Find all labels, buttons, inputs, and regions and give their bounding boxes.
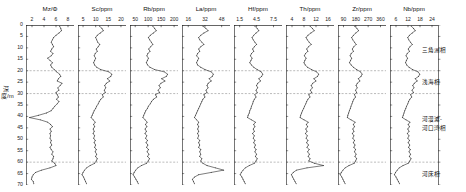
chart-panel-hf-ppm: Hf/ppm1.54.57.5 (234, 25, 282, 185)
data-point (307, 167, 308, 168)
data-point (197, 110, 198, 111)
data-point (200, 154, 201, 155)
data-point (356, 85, 357, 86)
data-point (51, 145, 52, 146)
data-point (310, 26, 311, 27)
data-point (51, 140, 52, 141)
data-point (306, 142, 307, 143)
panel-xtick-label: 7.5 (270, 17, 277, 22)
data-point (207, 165, 208, 166)
data-point (410, 154, 411, 155)
chart-panel-th-ppm: Th/ppm481216 (286, 25, 334, 185)
data-point (347, 115, 348, 116)
data-point (207, 92, 208, 93)
data-point (251, 106, 252, 107)
data-point (408, 124, 409, 125)
data-curve (82, 26, 112, 184)
data-point (50, 51, 51, 52)
data-point (409, 99, 410, 100)
data-point (411, 26, 412, 27)
data-point (349, 62, 350, 63)
data-point (211, 81, 212, 82)
data-point (355, 90, 356, 91)
data-point (50, 142, 51, 143)
data-point (353, 51, 354, 52)
data-point (52, 44, 53, 45)
data-point (411, 97, 412, 98)
depth-tick-label: 10 (17, 45, 23, 50)
panel-title: Sc/ppm (78, 6, 126, 12)
data-point (96, 154, 97, 155)
data-point (54, 163, 55, 164)
data-point (195, 115, 196, 116)
data-point (152, 44, 153, 45)
data-point (94, 163, 95, 164)
data-point (145, 110, 146, 111)
data-point (95, 122, 96, 123)
data-point (255, 145, 256, 146)
data-point (305, 129, 306, 130)
data-point (254, 94, 255, 95)
panel-xtick-label: 100 (144, 17, 152, 22)
data-point (198, 142, 199, 143)
data-point (250, 60, 251, 61)
data-point (409, 131, 410, 132)
data-point (252, 103, 253, 104)
data-point (51, 131, 52, 132)
data-point (300, 117, 301, 118)
data-point (407, 58, 408, 59)
chart-panel-zr-ppm: Zr/ppm90180270360 (338, 25, 386, 185)
data-point (410, 94, 411, 95)
data-point (198, 131, 199, 132)
data-point (256, 154, 257, 155)
data-point (256, 90, 257, 91)
panel-xtick-label: 50 (132, 17, 138, 22)
panel-xtick-row: 481216 (286, 17, 334, 24)
data-point (356, 44, 357, 45)
data-point (56, 35, 57, 36)
data-point (51, 42, 52, 43)
data-point (305, 65, 306, 66)
data-point (254, 26, 255, 27)
data-point (409, 145, 410, 146)
data-point (94, 60, 95, 61)
data-point (51, 154, 52, 155)
data-point (241, 172, 242, 173)
data-point (148, 154, 149, 155)
data-point (253, 39, 254, 40)
data-point (94, 110, 95, 111)
chart-panel-sc-ppm: Sc/ppm5101520 (78, 25, 126, 185)
data-curve (240, 26, 263, 184)
data-point (256, 161, 257, 162)
data-point (96, 49, 97, 50)
data-point (50, 147, 51, 148)
data-point (196, 62, 197, 63)
data-point (356, 158, 357, 159)
data-point (307, 51, 308, 52)
data-point (198, 174, 199, 175)
data-point (100, 99, 101, 100)
data-point (415, 78, 416, 79)
panel-title: Nb/ppm (390, 6, 438, 12)
data-point (308, 156, 309, 157)
depth-tick-label: 20 (17, 68, 23, 73)
data-point (97, 51, 98, 52)
data-point (345, 167, 346, 168)
data-point (408, 142, 409, 143)
data-point (254, 135, 255, 136)
panel-xtick-label: 5 (82, 17, 85, 22)
data-point (351, 53, 352, 54)
data-point (256, 149, 257, 150)
data-point (154, 28, 155, 29)
figure-right-axis (438, 25, 442, 189)
data-point (198, 147, 199, 148)
data-point (201, 158, 202, 159)
data-point (293, 172, 294, 173)
data-point (361, 76, 362, 77)
data-point (196, 113, 197, 114)
data-point (47, 122, 48, 123)
panel-xtick-label: 20 (118, 17, 124, 22)
panel-xtick-row: 6121824 (390, 17, 438, 24)
data-point (93, 119, 94, 120)
data-point (255, 156, 256, 157)
